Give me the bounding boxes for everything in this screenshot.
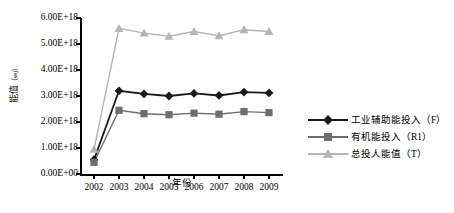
plot-area: 20022003200420052006200720082009 xyxy=(80,18,283,174)
y-axis-tick-label: 0.00E+00 xyxy=(14,169,78,179)
x-axis-line xyxy=(80,174,283,176)
y-axis-tick-label: 5.00E+18 xyxy=(14,39,78,49)
data-point-marker xyxy=(190,27,199,35)
data-point-marker xyxy=(165,111,172,118)
data-point-marker xyxy=(115,107,122,114)
data-point-marker xyxy=(240,108,247,115)
legend-marker-icon xyxy=(322,148,334,160)
y-axis-tick-label: 4.00E+18 xyxy=(14,65,78,75)
series-layer xyxy=(80,18,283,174)
y-axis-tick-labels: 6.00E+185.00E+184.00E+183.00E+182.00E+18… xyxy=(14,0,78,213)
data-point-marker xyxy=(215,91,224,100)
data-point-marker xyxy=(215,111,222,118)
x-axis-title: 年份 xyxy=(80,178,283,189)
data-point-marker xyxy=(165,92,174,101)
y-axis-tick-label: 3.00E+18 xyxy=(14,91,78,101)
data-point-marker xyxy=(140,90,149,99)
y-axis-tick-label: 2.00E+18 xyxy=(14,117,78,127)
data-point-marker xyxy=(265,88,274,97)
data-point-marker xyxy=(190,110,197,117)
data-point-marker xyxy=(115,86,124,95)
legend-item-label: 有机能投入（R1） xyxy=(348,132,432,143)
legend-item[interactable]: 总投人能值（T） xyxy=(308,146,454,163)
data-point-marker xyxy=(324,133,332,141)
energy-value-line-chart: 能值（sej） 6.00E+185.00E+184.00E+183.00E+18… xyxy=(0,0,454,213)
legend-item-label: 工业辅助能投入（F） xyxy=(348,115,446,126)
legend-item[interactable]: 有机能投入（R1） xyxy=(308,129,454,146)
y-axis-tick-label: 1.00E+18 xyxy=(14,143,78,153)
legend-key-triangle-icon xyxy=(308,147,348,162)
legend-marker-icon xyxy=(322,114,334,126)
legend-marker-icon xyxy=(322,131,334,143)
data-point-marker xyxy=(115,24,124,32)
data-point-marker xyxy=(323,115,333,125)
data-point-marker xyxy=(140,110,147,117)
series-line xyxy=(94,110,269,162)
data-point-marker xyxy=(323,149,333,158)
data-point-marker xyxy=(265,109,272,116)
chart-legend: 工业辅助能投入（F）有机能投入（R1）总投人能值（T） xyxy=(308,112,454,163)
legend-key-square-icon xyxy=(308,130,348,145)
data-point-marker xyxy=(240,88,249,97)
legend-item-label: 总投人能值（T） xyxy=(348,149,427,160)
series-line xyxy=(94,91,269,160)
data-point-marker xyxy=(190,89,199,98)
data-point-marker xyxy=(240,25,249,33)
legend-item[interactable]: 工业辅助能投入（F） xyxy=(308,112,454,129)
data-point-marker xyxy=(90,159,97,166)
legend-key-diamond-icon xyxy=(308,113,348,128)
y-axis-tick-label: 6.00E+18 xyxy=(14,13,78,23)
